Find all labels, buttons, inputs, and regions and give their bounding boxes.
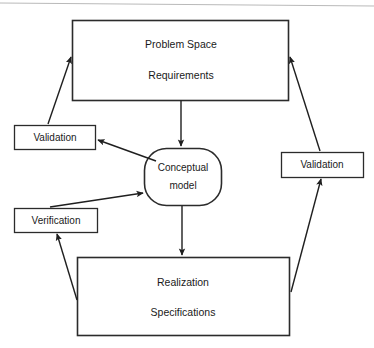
verification-label: Verification [32, 215, 81, 226]
edge-validation-left-to-problem [48, 57, 71, 124]
edge-realization-to-verification [57, 234, 77, 300]
edge-validation-right-to-problem [290, 57, 320, 151]
scan-artifact-rule [0, 3, 374, 6]
conceptual-model-line1: Conceptual [158, 162, 209, 173]
problem-space-line2: Requirements [148, 69, 213, 81]
diagram-figure: Problem Space Requirements Conceptual mo… [0, 0, 374, 348]
problem-space-box [73, 21, 289, 101]
conceptual-model-line2: model [169, 180, 196, 191]
conceptual-model-box [145, 149, 222, 206]
problem-space-line1: Problem Space [145, 38, 217, 50]
edge-conceptual-to-validation-left [98, 140, 156, 161]
diagram-canvas: Problem Space Requirements Conceptual mo… [0, 0, 374, 348]
realization-box [78, 258, 290, 336]
realization-line1: Realization [157, 276, 209, 288]
edge-realization-to-validation-right [291, 179, 321, 292]
edge-verification-to-conceptual [50, 193, 143, 207]
realization-line2: Specifications [151, 306, 216, 318]
validation-left-label: Validation [33, 132, 76, 143]
validation-right-label: Validation [300, 159, 343, 170]
